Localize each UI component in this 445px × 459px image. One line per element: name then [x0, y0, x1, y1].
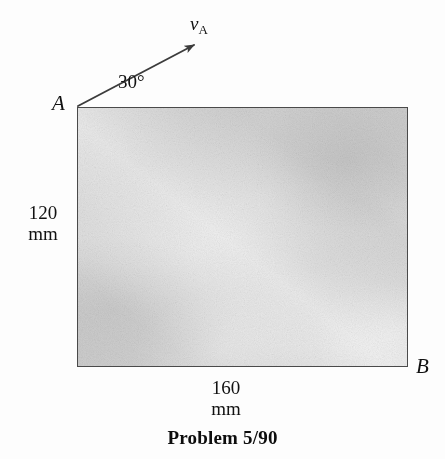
- figure-problem-5-90: A B 30° vA 120 mm 160 mm Problem 5/90: [0, 0, 445, 459]
- dimension-label-width: 160 mm: [186, 378, 266, 419]
- figure-caption: Problem 5/90: [0, 427, 445, 449]
- angle-label-30deg: 30°: [118, 72, 145, 93]
- dimension-label-height: 120 mm: [14, 203, 72, 244]
- height-unit: mm: [14, 224, 72, 245]
- width-unit: mm: [186, 399, 266, 420]
- corner-label-b: B: [416, 355, 429, 378]
- velocity-label: vA: [190, 14, 208, 37]
- rectangular-plate: [77, 107, 408, 367]
- height-value: 120: [14, 203, 72, 224]
- velocity-subscript: A: [198, 22, 207, 37]
- plate-texture-grain: [78, 108, 407, 366]
- corner-label-a: A: [52, 92, 65, 115]
- width-value: 160: [186, 378, 266, 399]
